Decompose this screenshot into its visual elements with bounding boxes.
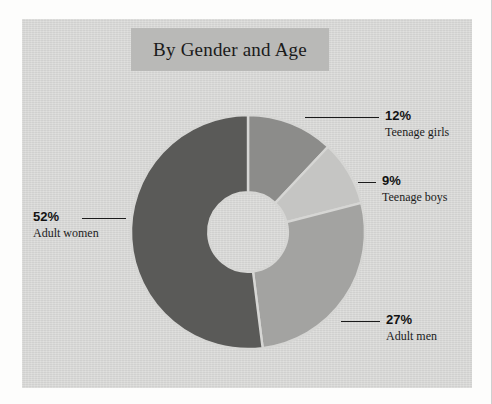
donut-slices	[131, 115, 365, 349]
callout-label-teenage-boys: Teenage boys	[382, 190, 447, 205]
leader-line-teenage-boys	[358, 182, 376, 183]
callout-percent-teenage-girls: 12%	[385, 108, 449, 123]
callout-label-adult-men: Adult men	[386, 329, 437, 344]
callout-percent-adult-women: 52%	[33, 209, 99, 224]
callout-teenage-boys: 9% Teenage boys	[382, 173, 447, 205]
leader-line-adult-men	[341, 321, 380, 322]
callout-percent-teenage-boys: 9%	[382, 173, 447, 188]
callout-label-adult-women: Adult women	[33, 226, 99, 241]
callout-teenage-girls: 12% Teenage girls	[385, 108, 449, 140]
callout-adult-women: 52% Adult women	[33, 209, 99, 241]
callout-label-teenage-girls: Teenage girls	[385, 125, 449, 140]
leader-line-teenage-girls	[305, 117, 379, 118]
callout-adult-men: 27% Adult men	[386, 312, 437, 344]
callout-percent-adult-men: 27%	[386, 312, 437, 327]
donut-slice-adult-women	[131, 115, 263, 349]
chart-page: By Gender and Age 12% Teenage girls 9% T…	[0, 0, 492, 404]
donut-slice-adult-men	[253, 203, 365, 348]
